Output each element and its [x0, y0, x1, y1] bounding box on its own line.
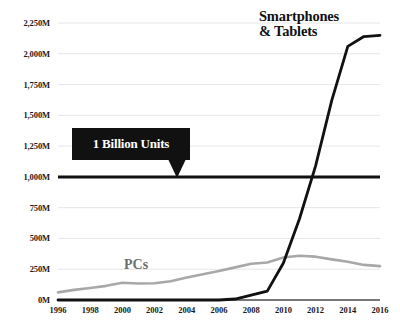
series-line-pcs	[58, 256, 380, 293]
y-axis-tick-label: 1,250M	[0, 141, 50, 151]
series-label-pcs: PCs	[124, 258, 148, 273]
x-axis-tick-label: 2012	[307, 305, 324, 315]
one-billion-units-callout: 1 Billion Units	[72, 128, 190, 160]
x-axis-tick-label: 2002	[146, 305, 163, 315]
smartphones-label-line2: & Tablets	[259, 23, 317, 39]
y-axis-tick-label: 250M	[0, 264, 50, 274]
y-axis-tick-label: 2,250M	[0, 18, 50, 28]
x-axis-tick-label: 1996	[50, 305, 67, 315]
x-axis-tick-label: 2016	[372, 305, 389, 315]
x-axis-tick-label: 2004	[178, 305, 195, 315]
x-axis-tick-label: 2014	[339, 305, 356, 315]
x-axis-tick-label: 2010	[275, 305, 292, 315]
x-axis-tick-label: 2008	[243, 305, 260, 315]
y-axis-tick-label: 1,500M	[0, 110, 50, 120]
series-group	[58, 35, 380, 300]
y-axis-tick-label: 750M	[0, 203, 50, 213]
chart-container: 2,250M2,000M1,750M1,500M1,250M1,000M750M…	[0, 0, 400, 331]
series-label-smartphones-tablets: Smartphones& Tablets	[259, 9, 339, 40]
x-axis-tick-label: 2006	[211, 305, 228, 315]
smartphones-label-line1: Smartphones	[259, 8, 339, 24]
y-axis-tick-label: 1,750M	[0, 80, 50, 90]
chart-svg	[0, 0, 400, 331]
y-axis-tick-label: 2,000M	[0, 49, 50, 59]
callout-label: 1 Billion Units	[93, 136, 169, 152]
plot-area: 2,250M2,000M1,750M1,500M1,250M1,000M750M…	[0, 0, 400, 331]
y-axis-tick-label: 0M	[0, 295, 50, 305]
callout-pointer-icon	[168, 159, 186, 178]
y-axis-tick-label: 500M	[0, 233, 50, 243]
x-axis-tick-label: 2000	[114, 305, 131, 315]
y-axis-tick-label: 1,000M	[0, 172, 50, 182]
x-axis-tick-label: 1998	[82, 305, 99, 315]
